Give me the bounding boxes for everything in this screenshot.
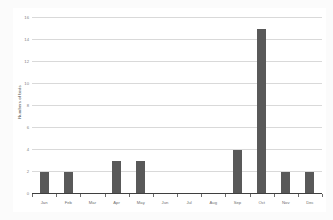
y-axis-tick-label: 8 [27,103,29,108]
bar[interactable] [64,172,73,194]
bar-slot [80,18,104,194]
bar-slot [105,18,129,194]
bar-slot [250,18,274,194]
x-axis-tick-label: Aug [201,198,225,208]
plot-area: 0246810121416 [32,18,322,194]
x-axis-tick-labels: JanFebMarAprMayJunJulAugSepOctNovDec [32,198,322,208]
x-axis-tick-label: Mar [80,198,104,208]
x-axis-tick-label: Dec [298,198,322,208]
x-axis-tick-label: Jun [153,198,177,208]
x-axis-tick-label: Jan [32,198,56,208]
x-axis-tickmark [80,194,81,197]
x-axis-tickmark [225,194,226,197]
bar-chart-figure: Numbers of birds 0246810121416 JanFebMar… [0,0,333,220]
x-axis-tickmark [298,194,299,197]
bar-slot [225,18,249,194]
y-axis-tick-label: 16 [24,15,29,20]
y-axis-tick-label: 6 [27,125,29,130]
x-axis-tick-label: Oct [250,198,274,208]
y-axis-tick-label: 10 [24,81,29,86]
bar-slot [129,18,153,194]
bar-slot [32,18,56,194]
x-axis-tick-label: Feb [56,198,80,208]
bar[interactable] [257,29,266,194]
y-axis-tick-label: 4 [27,147,29,152]
bar-series [32,18,322,194]
bar[interactable] [40,172,49,194]
x-axis-tickmark [250,194,251,197]
x-axis-tickmark [32,194,33,197]
bar[interactable] [305,172,314,194]
y-axis-tick-label: 12 [24,59,29,64]
y-axis-tick-label: 2 [27,169,29,174]
x-axis-tickmark [322,194,323,197]
x-axis-tick-label: Apr [105,198,129,208]
x-axis-tick-label: Jul [177,198,201,208]
bar[interactable] [281,172,290,194]
x-axis-tickmark [201,194,202,197]
bar[interactable] [112,161,121,194]
bar-slot [298,18,322,194]
bar-slot [177,18,201,194]
x-axis-tickmark [56,194,57,197]
bar[interactable] [233,150,242,194]
x-axis-tickmark [153,194,154,197]
x-axis-tickmark [274,194,275,197]
x-axis-tick-label: Sep [225,198,249,208]
x-axis-tickmark [105,194,106,197]
x-axis-tick-label: May [129,198,153,208]
x-axis-tickmark [129,194,130,197]
x-axis-tick-label: Nov [274,198,298,208]
y-axis-tick-label: 0 [27,191,29,196]
bar-slot [153,18,177,194]
bar-slot [201,18,225,194]
y-axis-tick-label: 14 [24,37,29,42]
bar-slot [56,18,80,194]
y-axis-title: Numbers of birds [14,0,25,204]
bar-slot [274,18,298,194]
x-axis-tickmark [177,194,178,197]
bar[interactable] [136,161,145,194]
